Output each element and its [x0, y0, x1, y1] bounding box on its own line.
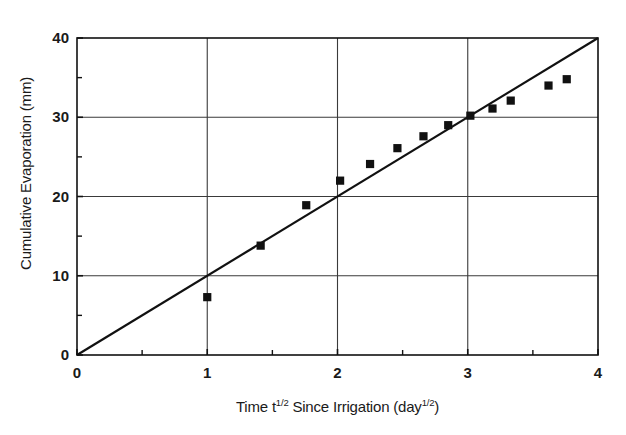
- data-point-marker: [419, 132, 427, 140]
- data-point-marker: [544, 81, 552, 89]
- data-point-marker: [302, 201, 310, 209]
- evaporation-chart-figure: Cumulative Evaporation (mm) Time t1/2 Si…: [0, 0, 626, 435]
- data-point-marker: [203, 293, 211, 301]
- data-point-marker: [336, 177, 344, 185]
- plot-area: [0, 0, 626, 435]
- data-point-marker: [488, 104, 496, 112]
- data-point-marker: [507, 97, 515, 105]
- data-point-marker: [393, 144, 401, 152]
- data-point-marker: [563, 75, 571, 83]
- data-point-marker: [366, 160, 374, 168]
